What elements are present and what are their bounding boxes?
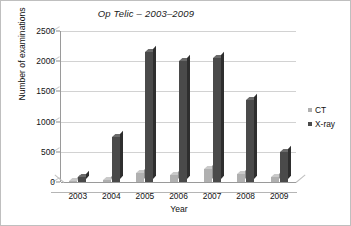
bar-ct-2008 [237, 174, 245, 182]
bar-ct-2006 [170, 175, 178, 182]
bar-x-ray-2004 [112, 137, 120, 182]
bar-ct-2009 [271, 177, 279, 182]
bar-face [103, 180, 111, 182]
bar-face [204, 169, 212, 182]
bar-ct-2007 [204, 169, 212, 182]
y-tick-mark [56, 151, 60, 152]
chart-legend: CTX-ray [308, 104, 350, 132]
bar-x-ray-2007 [213, 58, 221, 182]
bar-x-ray-2008 [246, 100, 254, 182]
chart-figure: Op Telic – 2003–2009 Number of examinati… [0, 0, 351, 226]
bar-face [112, 137, 120, 182]
bar-face [170, 175, 178, 182]
bar-face [271, 177, 279, 182]
x-axis-title: Year [59, 204, 299, 214]
x-tick-label-2008: 2008 [236, 191, 255, 201]
bar-ct-2004 [103, 180, 111, 182]
bar-face [237, 174, 245, 182]
bar-side-face [254, 94, 257, 179]
legend-swatch-icon [308, 122, 312, 126]
floor-right-edge [296, 174, 306, 182]
y-axis-title: Number of examinations [17, 0, 27, 119]
y-tick-label: 2500 [36, 26, 55, 36]
bar-side-face [153, 46, 156, 179]
bar-x-ray-2009 [280, 152, 288, 182]
bar-group [195, 31, 229, 182]
y-tick-mark [56, 121, 60, 122]
bar-face [179, 61, 187, 182]
x-tick-label-2005: 2005 [136, 191, 155, 201]
legend-label: CT [315, 105, 326, 115]
y-tick-label: 2000 [36, 56, 55, 66]
x-tick-label-2004: 2004 [102, 191, 121, 201]
legend-swatch-icon [308, 108, 312, 112]
y-tick-label: 1000 [36, 117, 55, 127]
x-tick-label-2007: 2007 [203, 191, 222, 201]
y-tick-mark [56, 31, 60, 32]
y-tick-label: 500 [41, 147, 55, 157]
y-tick-label: 1500 [36, 86, 55, 96]
legend-label: X-ray [315, 119, 335, 129]
x-tick-labels: 2003200420052006200720082009 [61, 191, 296, 205]
bar-side-face [221, 52, 224, 179]
bar-group [229, 31, 263, 182]
bar-group [95, 31, 129, 182]
y-tick-mark [56, 61, 60, 62]
bar-side-face [86, 170, 89, 179]
x-tick-label-2006: 2006 [169, 191, 188, 201]
bar-face [280, 152, 288, 182]
bar-series-container [61, 31, 296, 182]
bar-side-face [187, 55, 190, 179]
bar-x-ray-2006 [179, 61, 187, 182]
bar-side-face [120, 130, 123, 179]
chart-title: Op Telic – 2003–2009 [1, 8, 291, 19]
bar-side-face [288, 145, 291, 179]
bar-group [128, 31, 162, 182]
bar-group [162, 31, 196, 182]
bar-ct-2005 [136, 173, 144, 182]
bar-face [213, 58, 221, 182]
y-tick-mark [56, 91, 60, 92]
bar-ct-2003 [69, 181, 77, 182]
bar-x-ray-2003 [78, 177, 86, 182]
legend-item-x-ray[interactable]: X-ray [308, 118, 350, 130]
bar-group [262, 31, 296, 182]
bar-x-ray-2005 [145, 52, 153, 182]
x-tick-label-2009: 2009 [270, 191, 289, 201]
x-tick-label-2003: 2003 [68, 191, 87, 201]
bar-group [61, 31, 95, 182]
legend-item-ct[interactable]: CT [308, 104, 350, 116]
bar-face [246, 100, 254, 182]
